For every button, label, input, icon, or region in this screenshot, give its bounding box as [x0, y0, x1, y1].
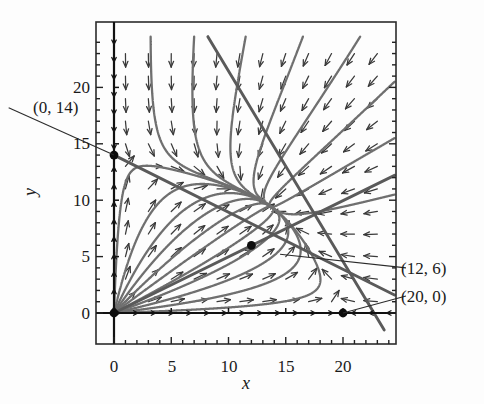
xtick-label-4: 20 [335, 357, 352, 376]
point-label-0-14: (0, 14) [33, 98, 78, 117]
equilibrium-dot-1 [247, 241, 256, 250]
xtick-label-0: 0 [110, 357, 119, 376]
phase-plane-figure: 0 5 10 15 20 0 5 10 15 20 x y (0, 14) (1… [0, 0, 484, 404]
x-axis-label: x [241, 373, 250, 393]
point-label-20-0: (20, 0) [401, 287, 446, 306]
ytick-label-3: 15 [73, 134, 90, 153]
ytick-label-2: 10 [73, 191, 90, 210]
ytick-label-4: 20 [73, 78, 90, 97]
ytick-label-0: 0 [82, 304, 91, 323]
figure-svg: 0 5 10 15 20 0 5 10 15 20 x y (0, 14) (1… [0, 0, 484, 404]
equilibrium-dot-0 [110, 151, 119, 160]
xtick-label-2: 10 [221, 357, 238, 376]
equilibrium-dot-3 [110, 309, 119, 318]
ytick-label-1: 5 [82, 247, 91, 266]
y-axis-label: y [20, 188, 40, 198]
xtick-label-1: 5 [168, 357, 177, 376]
xtick-label-3: 15 [278, 357, 295, 376]
point-label-12-6: (12, 6) [401, 259, 446, 278]
